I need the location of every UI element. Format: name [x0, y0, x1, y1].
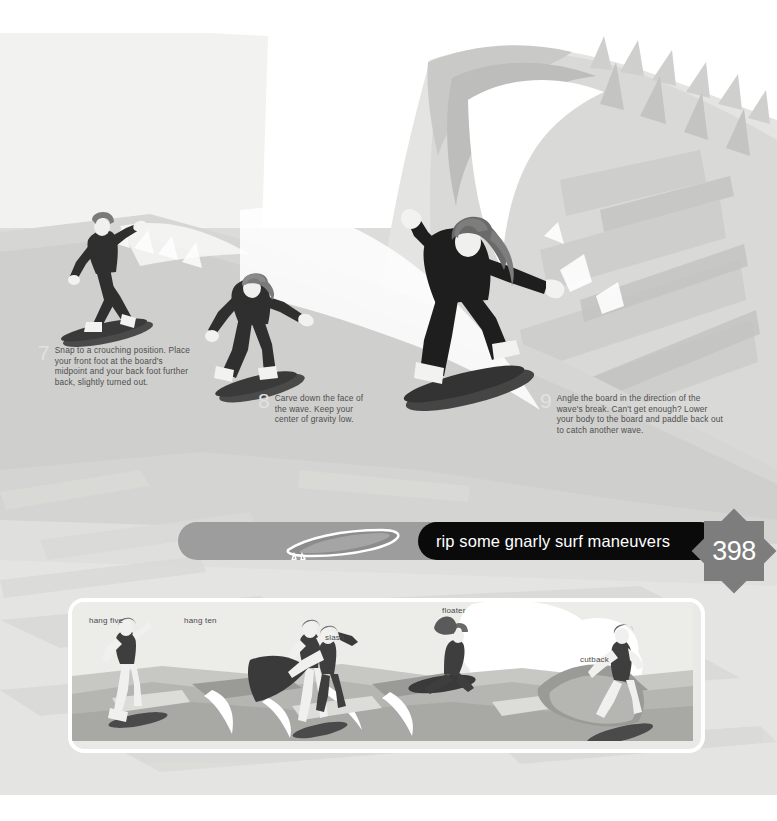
maneuver-label-slash: slash: [325, 633, 345, 642]
step-number: 8: [258, 393, 270, 408]
step-number: 9: [540, 393, 552, 408]
maneuver-strip: hang five hang ten slash floater cutback: [68, 598, 705, 753]
maneuver-label-hang-five: hang five: [89, 616, 123, 625]
banner-title: rip some gnarly surf maneuvers: [436, 530, 698, 552]
maneuver-label-cutback: cutback: [580, 655, 609, 664]
maneuver-label-hang-ten: hang ten: [184, 616, 217, 625]
step-number: 7: [38, 345, 50, 360]
surfboard-icon: [282, 528, 407, 560]
maneuver-label-floater: floater: [442, 606, 466, 615]
page-number: 398: [697, 514, 771, 588]
star-burst-icon: 398: [697, 514, 771, 588]
step-callout-9: 9 Angle the board in the direction of th…: [540, 393, 725, 435]
step-text: Angle the board in the direction of the …: [557, 393, 725, 435]
step-callout-8: 8 Carve down the face of the wave. Keep …: [258, 393, 376, 425]
step-text: Carve down the face of the wave. Keep yo…: [275, 393, 376, 425]
step-callout-7: 7 Snap to a crouching position. Place yo…: [38, 345, 190, 387]
maneuver-strip-graphic: [72, 602, 693, 741]
step-text: Snap to a crouching position. Place your…: [55, 345, 190, 387]
book-page: 7 Snap to a crouching position. Place yo…: [0, 0, 777, 821]
